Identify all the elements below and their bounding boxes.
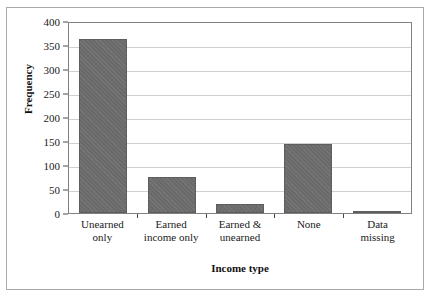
y-tick-label: 100 xyxy=(44,161,61,172)
bar[interactable] xyxy=(216,204,264,213)
x-tick-label-line: Earned & xyxy=(206,218,275,231)
bar[interactable] xyxy=(79,39,127,213)
bar[interactable] xyxy=(353,211,401,213)
x-tick-label-line: Earned xyxy=(137,218,206,231)
y-tick-label: 300 xyxy=(44,65,61,76)
x-tick-label: Earnedincome only xyxy=(137,218,206,244)
x-tick-label: Unearnedonly xyxy=(68,218,137,244)
bar-slot xyxy=(206,23,274,213)
y-tick-label: 200 xyxy=(44,113,61,124)
y-tick-label: 400 xyxy=(44,17,61,28)
x-tick-label: Earned &unearned xyxy=(206,218,275,244)
y-axis: 050100150200250300350400 xyxy=(0,22,68,214)
figure: Frequency 050100150200250300350400 Unear… xyxy=(0,0,431,303)
plot-area xyxy=(68,22,412,214)
bar-slot xyxy=(137,23,205,213)
bar[interactable] xyxy=(148,177,196,213)
x-tick-label: Datamissing xyxy=(343,218,412,244)
x-tick-label-line: None xyxy=(274,218,343,231)
bar-slot xyxy=(343,23,411,213)
y-tick-label: 150 xyxy=(44,137,61,148)
x-tick-label-line: Data xyxy=(343,218,412,231)
bar-series xyxy=(69,23,411,213)
x-axis-labels: UnearnedonlyEarnedincome onlyEarned &une… xyxy=(68,218,412,244)
y-tick-label: 350 xyxy=(44,41,61,52)
y-tick-label: 0 xyxy=(55,209,61,220)
y-tick-label: 50 xyxy=(49,185,60,196)
x-tick-label-line: Unearned xyxy=(68,218,137,231)
x-tick-label-line: missing xyxy=(343,231,412,244)
bar-slot xyxy=(69,23,137,213)
x-tick-label-line: income only xyxy=(137,231,206,244)
y-tick-label: 250 xyxy=(44,89,61,100)
bar-slot xyxy=(274,23,342,213)
bar[interactable] xyxy=(284,144,332,213)
x-axis-title: Income type xyxy=(68,262,412,274)
x-tick-label-line: only xyxy=(68,231,137,244)
x-tick-label-line: unearned xyxy=(206,231,275,244)
x-tick-label: None xyxy=(274,218,343,244)
